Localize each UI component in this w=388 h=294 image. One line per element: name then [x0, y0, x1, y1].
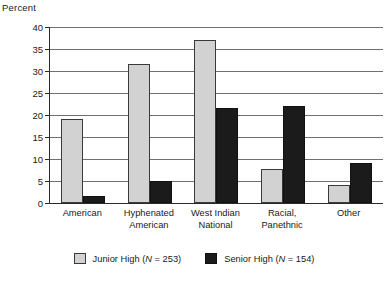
- bar-junior: [194, 40, 216, 203]
- y-tick-label: 10: [13, 154, 43, 165]
- x-axis-label-line: American: [116, 220, 183, 232]
- x-axis-label: West IndianNational: [182, 208, 249, 231]
- legend-item: Senior High (N = 154): [205, 253, 314, 264]
- y-axis-title: Percent: [2, 2, 36, 13]
- bar-senior: [283, 106, 305, 203]
- bar-group: [117, 27, 184, 203]
- y-tick-label: 25: [13, 88, 43, 99]
- x-axis-label-line: National: [182, 220, 249, 232]
- x-axis-label: American: [49, 208, 116, 220]
- x-axis-label: HyphenatedAmerican: [116, 208, 183, 231]
- x-axis-label-line: Hyphenated: [116, 208, 183, 220]
- chart-legend: Junior High (N = 253)Senior High (N = 15…: [0, 253, 388, 264]
- legend-label: Junior High (N = 253): [93, 254, 182, 264]
- x-axis-label-line: Racial,: [249, 208, 316, 220]
- x-axis-label: Racial,Panethnic: [249, 208, 316, 231]
- bar-series-layer: [50, 27, 383, 203]
- x-axis-label-line: Other: [315, 208, 382, 220]
- bar-senior: [83, 196, 105, 203]
- y-tick-label: 15: [13, 132, 43, 143]
- y-tick-label: 35: [13, 44, 43, 55]
- bar-junior: [61, 119, 83, 203]
- bar-junior: [261, 169, 283, 203]
- x-axis-label-line: West Indian: [182, 208, 249, 220]
- legend-item: Junior High (N = 253): [74, 253, 182, 264]
- bar-group: [316, 27, 383, 203]
- bar-chart-figure: Percent 0510152025303540 AmericanHyphena…: [0, 0, 388, 294]
- legend-swatch-junior: [74, 253, 86, 264]
- x-axis-label-line: American: [49, 208, 116, 220]
- bar-junior: [328, 185, 350, 203]
- y-tick-mark: [45, 203, 50, 204]
- bar-junior: [128, 64, 150, 203]
- x-axis-label: Other: [315, 208, 382, 220]
- plot-area: 0510152025303540: [49, 27, 383, 204]
- bar-group: [250, 27, 317, 203]
- bar-group: [183, 27, 250, 203]
- y-tick-label: 30: [13, 66, 43, 77]
- y-tick-label: 0: [13, 198, 43, 209]
- legend-label: Senior High (N = 154): [224, 254, 314, 264]
- bar-group: [50, 27, 117, 203]
- legend-swatch-senior: [205, 253, 217, 264]
- bar-senior: [350, 163, 372, 203]
- bar-senior: [150, 181, 172, 203]
- x-axis-labels: AmericanHyphenatedAmericanWest IndianNat…: [49, 208, 382, 244]
- x-axis-label-line: Panethnic: [249, 220, 316, 232]
- y-tick-label: 20: [13, 110, 43, 121]
- y-tick-label: 5: [13, 176, 43, 187]
- bar-senior: [216, 108, 238, 203]
- y-tick-label: 40: [13, 22, 43, 33]
